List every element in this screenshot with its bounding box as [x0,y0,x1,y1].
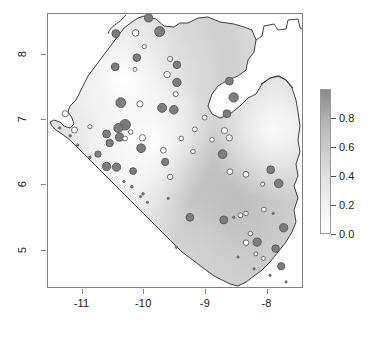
data-point [167,197,169,199]
data-point [191,149,196,154]
data-point [139,195,141,197]
data-point [274,179,283,188]
data-point [173,61,181,69]
data-point [76,144,79,147]
data-point [130,185,133,188]
data-point [106,139,113,146]
data-point [146,201,148,203]
data-point [137,101,143,107]
data-point [278,263,285,270]
data-point [123,180,126,183]
data-point [160,147,166,153]
data-point [62,111,68,117]
data-point [72,127,78,133]
data-point [272,212,274,214]
data-point [262,207,267,212]
data-point [223,110,231,118]
data-point [210,137,215,142]
data-point [173,92,178,97]
data-point [142,193,145,196]
data-point [202,115,207,120]
data-point [132,30,139,37]
data-point [142,44,146,48]
data-point [254,252,258,256]
y-axis-tick [41,184,46,185]
data-point [285,281,287,283]
data-point [95,151,101,157]
map-raster-layer [48,14,302,287]
data-point [144,14,152,22]
x-axis-tick [205,289,206,294]
data-point [237,256,239,258]
y-axis-tick [41,250,46,251]
data-point [280,224,288,232]
neighbour-border-northeast [256,19,302,40]
colorbar-gradient [320,89,331,234]
data-point [111,63,119,71]
data-point [232,216,234,218]
data-point [243,240,249,246]
colorbar-tick [331,234,336,235]
data-point [226,135,232,141]
data-point [102,162,110,170]
y-axis-tick [41,54,46,55]
y-axis-tick-label: 7 [16,116,28,122]
x-axis-tick [143,289,144,294]
data-point [128,130,133,135]
x-axis-tick-label: -9 [200,297,210,309]
x-axis-tick [267,289,268,294]
data-point [133,54,141,62]
data-point [88,125,92,129]
data-point [175,246,177,248]
data-point [186,213,194,221]
plot-area [47,13,303,288]
data-point [162,158,169,165]
colorbar-tick-label: 0.8 [339,112,354,124]
data-point [218,150,227,159]
data-point [103,130,111,138]
data-point [261,256,265,260]
x-axis-tick-label: -8 [262,297,272,309]
data-point [114,124,123,133]
data-point [227,169,233,175]
data-point [164,71,170,77]
data-point [112,163,120,171]
y-axis-tick [41,119,46,120]
x-axis-tick-label: -11 [74,297,90,309]
colorbar-tick-label: 0.6 [339,141,354,153]
colorbar-tick [331,147,336,148]
data-point [123,136,128,141]
data-point [115,133,123,141]
data-point [269,274,271,276]
data-point [238,213,243,218]
data-point [170,105,179,114]
data-point [229,93,238,102]
data-point [168,56,173,61]
x-axis-tick [82,289,83,294]
data-point [267,166,275,174]
data-point [261,182,265,186]
colorbar-tick [331,118,336,119]
data-point [167,174,172,179]
colorbar-tick [331,176,336,177]
data-point [225,77,233,85]
data-point [137,144,146,153]
map-svg [48,14,302,287]
interpolated-surface [48,14,302,287]
data-point [155,27,165,37]
y-axis-tick-label: 8 [16,51,28,57]
y-axis-tick-label: 6 [16,181,28,187]
data-point [179,136,184,141]
data-point [243,171,249,177]
colorbar-tick-label: 0.4 [339,170,354,182]
data-point [272,245,280,253]
data-point [69,135,72,138]
data-point [130,168,137,175]
data-point [192,127,197,132]
colorbar-tick [331,205,336,206]
data-point [221,128,227,134]
data-point [253,238,261,246]
data-point [139,135,145,141]
data-point [248,231,253,236]
data-point [244,211,248,215]
